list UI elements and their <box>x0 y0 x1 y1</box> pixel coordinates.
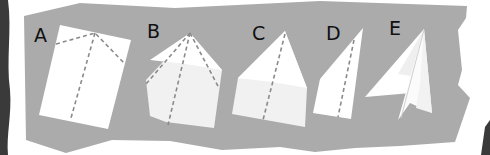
step-e-label: E <box>389 17 401 39</box>
bottom-right-edge <box>481 120 490 155</box>
step-c-label: C <box>252 22 265 44</box>
left-edge-shadow <box>0 0 10 155</box>
step-d-label: D <box>326 22 341 44</box>
step-a-label: A <box>34 24 47 46</box>
folding-diagram: A B C D E <box>0 0 490 155</box>
step-b-label: B <box>147 20 160 42</box>
